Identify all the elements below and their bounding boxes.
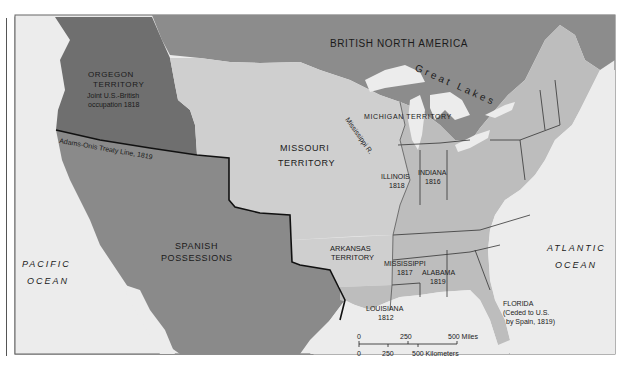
label-florida: FLORIDA xyxy=(503,300,533,308)
label-indiana: INDIANA xyxy=(418,169,446,177)
label-oregon-title: ORGEGON xyxy=(88,70,134,79)
label-spanish-possessions-1: SPANISH xyxy=(175,241,218,251)
label-florida-note2: by Spain, 1819) xyxy=(506,318,555,326)
scale-miles-500: 500 Miles xyxy=(448,333,478,341)
label-illinois: ILLINOIS xyxy=(381,173,410,181)
label-mississippi: MISSISSIPPI xyxy=(384,260,426,268)
scale-km-500: 500 Kilometers xyxy=(412,350,459,358)
scale-miles-0: 0 xyxy=(357,333,361,341)
label-louisiana: LOUISIANA xyxy=(366,305,403,313)
label-atlantic-ocean-1: ATLANTIC xyxy=(547,243,606,253)
label-florida-note1: (Ceded to U.S. xyxy=(503,309,549,317)
label-alabama-year: 1819 xyxy=(430,278,446,286)
label-pacific-ocean-1: PACIFIC xyxy=(22,259,71,269)
label-indiana-year: 1816 xyxy=(425,178,441,186)
label-mississippi-year: 1817 xyxy=(397,269,413,277)
label-missouri-territory-2: TERRITORY xyxy=(278,158,335,168)
label-british-north-america: BRITISH NORTH AMERICA xyxy=(330,38,468,50)
label-oregon-note2: occupation 1818 xyxy=(88,101,139,109)
label-oregon-note1: Joint U.S.-British xyxy=(87,92,139,100)
label-illinois-year: 1818 xyxy=(389,182,405,190)
label-alabama: ALABAMA xyxy=(422,269,455,277)
label-louisiana-year: 1812 xyxy=(378,314,394,322)
label-michigan-territory: MICHIGAN TERRITORY xyxy=(364,113,452,121)
scale-km-0: 0 xyxy=(357,350,361,358)
label-spanish-possessions-2: POSSESSIONS xyxy=(161,253,233,263)
label-arkansas-2: TERRITORY xyxy=(331,254,374,263)
label-oregon-title2: TERRITORY xyxy=(93,80,144,89)
scale-km-250: 250 xyxy=(382,350,394,358)
scale-miles-250: 250 xyxy=(400,333,412,341)
label-atlantic-ocean-2: OCEAN xyxy=(555,260,597,270)
label-missouri-territory-1: MISSOURI xyxy=(280,143,329,153)
label-pacific-ocean-2: OCEAN xyxy=(27,276,69,286)
